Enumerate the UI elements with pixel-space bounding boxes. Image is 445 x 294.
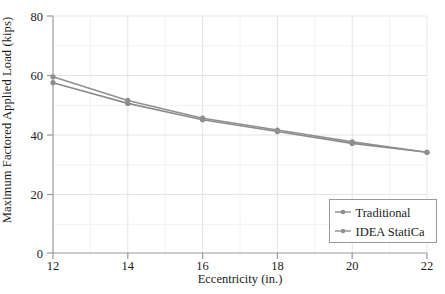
y-tick-label-20: 20	[31, 188, 44, 202]
y-tick-label-80: 80	[31, 10, 44, 24]
data-point	[424, 150, 429, 155]
y-axis-ticks: 80 60 40 20 0	[31, 10, 54, 261]
data-point	[50, 80, 55, 85]
x-tick-label-20: 20	[346, 259, 359, 273]
x-tick-label-12: 12	[47, 259, 60, 273]
plot-area: 80 60 40 20 0 12 14 16 18 20 22	[0, 0, 445, 294]
data-point	[125, 98, 130, 103]
x-tick-label-14: 14	[122, 259, 135, 273]
y-tick-label-60: 60	[31, 69, 44, 83]
legend-label-traditional: Traditional	[356, 206, 412, 220]
legend-label-idea-statica: IDEA StatiCa	[356, 225, 426, 239]
chart-figure: Maximum Factored Applied Load (kips) Ecc…	[0, 0, 445, 294]
y-tick-label-40: 40	[31, 129, 44, 143]
data-point	[275, 127, 280, 132]
x-tick-label-16: 16	[196, 259, 209, 273]
x-tick-label-22: 22	[421, 259, 434, 273]
legend[interactable]: Traditional IDEA StatiCa	[330, 200, 437, 243]
data-point	[50, 74, 55, 79]
x-tick-label-18: 18	[271, 259, 284, 273]
y-tick-label-0: 0	[37, 247, 43, 261]
data-point	[350, 139, 355, 144]
data-point	[200, 116, 205, 121]
x-axis-ticks: 12 14 16 18 20 22	[47, 253, 434, 273]
legend-marker-idea-statica	[341, 229, 346, 234]
legend-marker-traditional	[341, 210, 346, 215]
